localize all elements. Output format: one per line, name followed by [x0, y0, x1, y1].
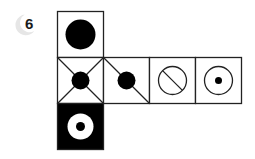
filled-circle-icon	[72, 72, 90, 90]
net-cell-middle-2	[104, 58, 150, 104]
net-cell-middle-1	[58, 58, 104, 104]
net-cell-middle-3	[150, 58, 196, 104]
net-cell-bottom	[58, 104, 104, 150]
filled-circle-icon	[66, 20, 96, 50]
filled-circle-icon	[118, 72, 136, 90]
cube-net-diagram	[0, 0, 255, 159]
net-cell-middle-4	[196, 58, 242, 104]
net-cell-top	[58, 12, 104, 58]
